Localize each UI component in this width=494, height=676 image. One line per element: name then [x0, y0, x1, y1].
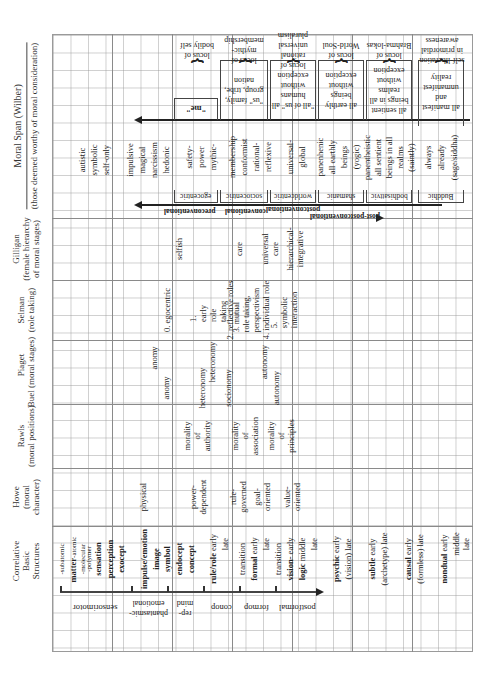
structure-vision-logic-late: late — [308, 528, 320, 590]
level-bodhisattvic: bodhisattvic — [366, 190, 412, 202]
moral-span-narcissism: narcissism — [148, 130, 160, 190]
level-buddhic: Buddhic — [418, 190, 464, 202]
header-moral-span: Moral Span (Wilber) (those deemed worthy… — [0, 34, 52, 218]
axis-tick — [167, 586, 169, 592]
axis-tick — [131, 586, 133, 592]
rawls-subtitle: (moral positions) — [26, 405, 36, 467]
moral-span-self-only: self-only — [100, 130, 112, 190]
axis-tick — [275, 586, 277, 592]
howe-power-dependent: power-dependent — [186, 470, 210, 524]
structure-psychic-vision: (vision) late — [342, 528, 354, 590]
structure-subtle: subtle early — [366, 528, 378, 590]
structures-title-2: Basic — [21, 541, 31, 581]
moral-span-stage-sociocentric-desc: membership conformist rational- reflexiv… — [224, 126, 276, 188]
structure-concept: concept — [185, 528, 197, 590]
rawls-title: Rawls — [16, 405, 26, 467]
moral-span-arrowhead-icon — [134, 116, 142, 124]
howe-subtitle: (moral — [21, 479, 31, 515]
howe-rule-governed: rule-governed — [226, 470, 250, 524]
moral-span-stage-bodhisattvic-desc: panentheistic all sentient beings in all… — [364, 126, 414, 188]
gilligan-subtitle-2: of moral stages) — [31, 217, 41, 281]
phase-post-postconventional: post-postconventional — [310, 210, 380, 222]
moral-span-stage-shamanic-desc: panenhenic all earthly beings (yogic) — [318, 126, 358, 188]
selman-symbolic-interaction: 5. symbolic interaction — [272, 282, 296, 338]
divider-moral-gilligan — [52, 218, 473, 219]
gilligan-care: care — [232, 220, 246, 278]
gilligan-selfish: selfish — [172, 220, 186, 278]
structure-vision-logic: vision- early — [284, 528, 296, 590]
rawls-authority: morality of authority — [184, 406, 210, 466]
structure-endocept: endocept — [173, 528, 185, 590]
howe-physical: physical — [136, 470, 150, 524]
structure-causal: causal early — [402, 528, 414, 590]
header-selman: Selman (role taking) — [0, 280, 52, 340]
rawls-association: morality of association — [232, 406, 258, 466]
structure-nondual: nondual early — [438, 528, 450, 590]
buel-anomy: anomy — [160, 372, 172, 404]
brace-icon: ⏟ — [174, 66, 220, 78]
howe-title: Howe — [11, 479, 21, 515]
selman-mutual-role-taking: 3. mutual role taking, perspectivism — [236, 282, 258, 338]
span-me: "me" — [174, 100, 218, 118]
selman-title: Selman — [16, 288, 26, 333]
howe-subtitle-2: character) — [31, 479, 41, 515]
selman-early-role-taking: 1. early role taking — [196, 282, 220, 338]
brace-icon: ⏟ — [318, 66, 364, 78]
band-sensorimotor: sensorimotor — [60, 594, 131, 622]
selman-egocentric: 0. egocentric — [160, 282, 174, 338]
level-shamanic: shamanic — [318, 190, 364, 202]
structure-nondual-late: late — [460, 528, 472, 590]
selman-subtitle: (role taking) — [26, 288, 36, 333]
axis-tick — [60, 586, 62, 592]
focus-bodily-self: locus of bodily self — [174, 36, 220, 64]
moral-span-magical: magical — [136, 130, 148, 190]
piaget-heteronomy: heteronomy — [206, 342, 218, 382]
brace-icon: ⏟ — [222, 66, 268, 78]
gilligan-subtitle: (female hierarchy — [21, 217, 31, 281]
level-egocentric: egocentric — [174, 190, 218, 202]
structures-axis — [60, 591, 318, 593]
structure-formal: formal early — [248, 528, 260, 590]
moral-span-symbolic: symbolic — [88, 130, 100, 190]
howe-value-oriented: value-oriented — [280, 470, 304, 524]
brace-icon: ⏟ — [366, 66, 412, 78]
focus-mythic-membership: locus of mythic-membership — [220, 36, 268, 64]
howe-goal-oriented: goal-oriented — [250, 470, 274, 524]
structure-symbol: symbol — [161, 528, 173, 590]
structure-exocept: exocept — [115, 528, 127, 590]
band-rep-mind: rep-mind — [167, 594, 203, 622]
moral-span-stage-buddhic-desc: always already (sage/siddha) — [418, 126, 464, 188]
divider-howe-structures — [52, 526, 473, 527]
moral-span-hedonic: hedonic — [160, 130, 172, 190]
header-piaget-buel: Piaget Buel (moral stages) — [0, 340, 52, 404]
structure-formal-late: late — [260, 528, 272, 590]
axis-tick — [203, 586, 205, 592]
structure-transition-2: transition — [272, 528, 284, 590]
brace-icon: ⏟ — [418, 66, 464, 78]
gilligan-title: Gilligan — [11, 217, 21, 281]
structure-rule-role: rule/role early — [207, 528, 219, 590]
structure-logic: logic middle — [296, 528, 308, 590]
structure-subatomic: -subatomic — [56, 528, 68, 590]
rawls-principles: morality of principles — [268, 406, 294, 466]
level-worldcentric: worldcentric — [270, 190, 316, 202]
buel-socionomy: socionomy — [222, 372, 234, 404]
divider-rawls-howe — [52, 468, 473, 469]
structure-archetype: (archetype) late — [378, 528, 390, 590]
gilligan-universal-care: universal care — [258, 220, 282, 278]
axis-tick — [239, 586, 241, 592]
focus-rational-pluralism: locus of rational universal pluralism — [270, 36, 316, 64]
structures-title: Correlative — [11, 541, 21, 581]
structure-transition-1: transition — [236, 528, 248, 590]
structure-rule-role-late: late — [219, 528, 231, 590]
header-structures: Correlative Basic Structures — [0, 526, 52, 596]
moral-span-stage-worldcentric-desc: universal- global — [276, 126, 316, 188]
moral-span-title: Moral Span (Wilber) — [13, 43, 23, 210]
buel-subtitle: (moral stages) — [26, 337, 36, 388]
structures-title-3: Structures — [31, 541, 41, 581]
phase-conventional: conventional — [220, 205, 270, 217]
moral-span-subtitle: (those deemed worthy of moral considerat… — [26, 43, 39, 210]
header-howe: Howe (moral character) — [0, 468, 52, 526]
phase-axis-left-arrowhead-icon — [134, 201, 142, 209]
divider-buel-rawls — [52, 404, 473, 405]
